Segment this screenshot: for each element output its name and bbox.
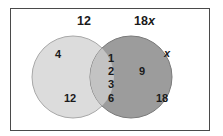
element-x: x	[163, 47, 171, 59]
set-18x-label: 18x	[134, 14, 156, 28]
set-12-label: 12	[77, 14, 91, 28]
venn-diagram: 12 18x 4 12 1 2 3 6 x 9 18	[0, 0, 223, 136]
element-6: 6	[108, 92, 114, 104]
element-4: 4	[55, 48, 62, 60]
set-18x-var: x	[147, 14, 156, 28]
element-2: 2	[108, 65, 114, 77]
element-12: 12	[64, 92, 76, 104]
element-18: 18	[156, 92, 168, 104]
element-9: 9	[139, 65, 145, 77]
element-3: 3	[108, 78, 114, 90]
element-1: 1	[108, 52, 114, 64]
